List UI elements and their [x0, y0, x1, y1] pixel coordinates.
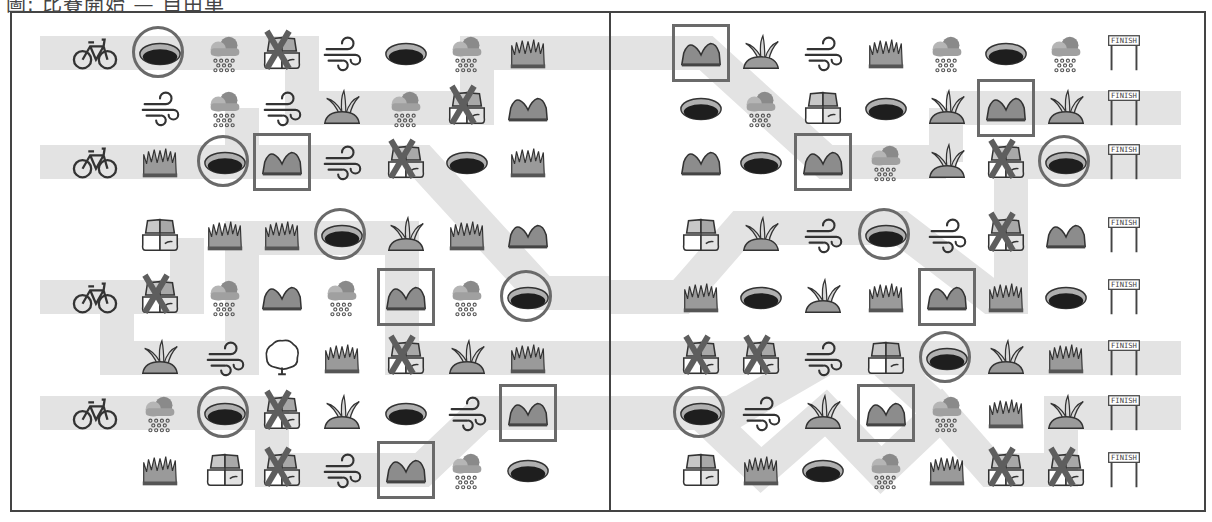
right-cell-r7-c6[interactable]: [979, 386, 1033, 440]
left-cell-r3-c8[interactable]: [501, 135, 555, 189]
right-cell-r8-c3[interactable]: [796, 443, 850, 497]
right-cell-r1-c7[interactable]: [1039, 26, 1093, 80]
left-cell-r3-c7[interactable]: [440, 135, 494, 189]
left-cell-r7-c4[interactable]: [255, 386, 309, 440]
right-cell-r4-c2[interactable]: [734, 208, 788, 262]
left-cell-r4-c6[interactable]: [379, 208, 433, 262]
right-cell-r6-c7[interactable]: [1039, 331, 1093, 385]
left-cell-r5-c3[interactable]: [198, 270, 252, 324]
left-cell-r5-c2[interactable]: [133, 270, 187, 324]
right-cell-r8-c4[interactable]: [859, 443, 913, 497]
right-cell-r5-c4[interactable]: [859, 270, 913, 324]
left-cell-r5-c6[interactable]: [379, 270, 433, 324]
right-cell-r2-c6[interactable]: [979, 81, 1033, 135]
left-cell-r7-c1[interactable]: [68, 386, 122, 440]
right-cell-r4-c5[interactable]: [920, 208, 974, 262]
right-cell-r3-c4[interactable]: [859, 135, 913, 189]
left-cell-r5-c1[interactable]: [68, 270, 122, 324]
left-cell-r7-c8[interactable]: [501, 386, 555, 440]
left-cell-r7-c5[interactable]: [315, 386, 369, 440]
right-cell-r5-c3[interactable]: [796, 270, 850, 324]
right-cell-r6-c1[interactable]: [674, 331, 728, 385]
right-cell-r6-c8[interactable]: FINISH: [1097, 331, 1151, 385]
right-cell-r7-c2[interactable]: [734, 386, 788, 440]
right-cell-r4-c7[interactable]: [1039, 208, 1093, 262]
right-cell-r1-c1[interactable]: [674, 26, 728, 80]
left-cell-r8-c6[interactable]: [379, 443, 433, 497]
left-cell-r4-c7[interactable]: [440, 208, 494, 262]
right-cell-r7-c1[interactable]: [674, 386, 728, 440]
right-cell-r7-c7[interactable]: [1039, 386, 1093, 440]
left-cell-r2-c7[interactable]: [440, 81, 494, 135]
left-cell-r6-c5[interactable]: [315, 331, 369, 385]
right-cell-r6-c4[interactable]: [859, 331, 913, 385]
left-cell-r1-c6[interactable]: [379, 26, 433, 80]
left-cell-r7-c6[interactable]: [379, 386, 433, 440]
right-cell-r7-c4[interactable]: [859, 386, 913, 440]
right-cell-r4-c1[interactable]: [674, 208, 728, 262]
left-cell-r7-c7[interactable]: [440, 386, 494, 440]
left-cell-r1-c2[interactable]: [133, 26, 187, 80]
right-cell-r3-c8[interactable]: FINISH: [1097, 135, 1151, 189]
left-cell-r4-c3[interactable]: [198, 208, 252, 262]
right-cell-r2-c2[interactable]: [734, 81, 788, 135]
left-cell-r6-c6[interactable]: [379, 331, 433, 385]
right-cell-r4-c8[interactable]: FINISH: [1097, 208, 1151, 262]
left-cell-r1-c4[interactable]: [255, 26, 309, 80]
right-cell-r7-c3[interactable]: [796, 386, 850, 440]
right-cell-r2-c7[interactable]: [1039, 81, 1093, 135]
left-cell-r2-c6[interactable]: [379, 81, 433, 135]
left-cell-r2-c8[interactable]: [501, 81, 555, 135]
right-cell-r6-c3[interactable]: [796, 331, 850, 385]
left-cell-r8-c4[interactable]: [255, 443, 309, 497]
right-cell-r4-c6[interactable]: [979, 208, 1033, 262]
right-cell-r7-c5[interactable]: [920, 386, 974, 440]
left-cell-r6-c7[interactable]: [440, 331, 494, 385]
left-cell-r8-c5[interactable]: [315, 443, 369, 497]
right-cell-r6-c6[interactable]: [979, 331, 1033, 385]
right-cell-r4-c3[interactable]: [796, 208, 850, 262]
left-cell-r8-c7[interactable]: [440, 443, 494, 497]
left-cell-r4-c2[interactable]: [133, 208, 187, 262]
right-cell-r1-c2[interactable]: [734, 26, 788, 80]
right-cell-r3-c1[interactable]: [674, 135, 728, 189]
left-cell-r3-c1[interactable]: [68, 135, 122, 189]
right-cell-r5-c2[interactable]: [734, 270, 788, 324]
right-cell-r8-c7[interactable]: [1039, 443, 1093, 497]
left-cell-r5-c4[interactable]: [255, 270, 309, 324]
right-cell-r3-c3[interactable]: [796, 135, 850, 189]
left-cell-r8-c8[interactable]: [501, 443, 555, 497]
left-cell-r7-c2[interactable]: [133, 386, 187, 440]
right-cell-r8-c6[interactable]: [979, 443, 1033, 497]
right-cell-r1-c5[interactable]: [920, 26, 974, 80]
right-cell-r2-c1[interactable]: [674, 81, 728, 135]
right-cell-r8-c5[interactable]: [920, 443, 974, 497]
left-cell-r6-c8[interactable]: [501, 331, 555, 385]
right-cell-r1-c4[interactable]: [859, 26, 913, 80]
right-cell-r4-c4[interactable]: [859, 208, 913, 262]
left-cell-r8-c3[interactable]: [198, 443, 252, 497]
right-cell-r5-c8[interactable]: FINISH: [1097, 270, 1151, 324]
left-cell-r2-c3[interactable]: [198, 81, 252, 135]
left-cell-r7-c3[interactable]: [198, 386, 252, 440]
left-cell-r1-c8[interactable]: [501, 26, 555, 80]
right-cell-r2-c5[interactable]: [920, 81, 974, 135]
right-cell-r5-c7[interactable]: [1039, 270, 1093, 324]
left-cell-r5-c7[interactable]: [440, 270, 494, 324]
left-cell-r4-c8[interactable]: [501, 208, 555, 262]
left-cell-r2-c2[interactable]: [133, 81, 187, 135]
right-cell-r5-c6[interactable]: [979, 270, 1033, 324]
left-cell-r1-c3[interactable]: [198, 26, 252, 80]
right-cell-r2-c4[interactable]: [859, 81, 913, 135]
right-cell-r5-c5[interactable]: [920, 270, 974, 324]
right-cell-r6-c5[interactable]: [920, 331, 974, 385]
right-cell-r6-c2[interactable]: [734, 331, 788, 385]
left-cell-r2-c5[interactable]: [315, 81, 369, 135]
left-cell-r2-c4[interactable]: [255, 81, 309, 135]
right-cell-r8-c1[interactable]: [674, 443, 728, 497]
left-cell-r3-c2[interactable]: [133, 135, 187, 189]
right-cell-r3-c6[interactable]: [979, 135, 1033, 189]
right-cell-r3-c7[interactable]: [1039, 135, 1093, 189]
left-cell-r5-c5[interactable]: [315, 270, 369, 324]
left-cell-r5-c8[interactable]: [501, 270, 555, 324]
